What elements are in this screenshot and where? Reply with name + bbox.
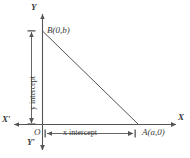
x-intercept-label: x intercept bbox=[63, 129, 97, 137]
y-negative-axis-label: Y′ bbox=[27, 138, 35, 147]
intercept-line bbox=[43, 32, 138, 125]
x-negative-axis-label: X′ bbox=[2, 115, 11, 124]
y-axis-label: Y bbox=[31, 3, 37, 12]
y-intercept-label: y intercept bbox=[29, 76, 37, 110]
point-a-label: A(a,0) bbox=[142, 128, 165, 137]
intercepts-diagram: Y Y′ X′ X O B(0,b) A(a,0) y intercept x … bbox=[0, 0, 190, 158]
x-axis-label: X bbox=[178, 113, 184, 122]
origin-label: O bbox=[34, 128, 41, 137]
point-b-label: B(0,b) bbox=[47, 26, 70, 35]
